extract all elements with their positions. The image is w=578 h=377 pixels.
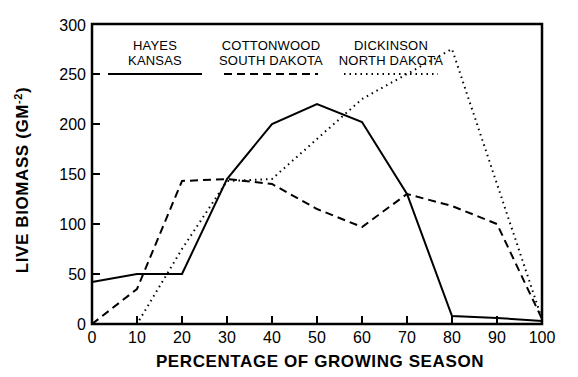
y-axis-title: LIVE BIOMASS (GM-2) <box>12 87 32 273</box>
x-tick-label: 100 <box>529 329 556 346</box>
x-tick-label: 30 <box>218 329 236 346</box>
legend-label-line2: KANSAS <box>128 53 182 68</box>
y-tick-label: 250 <box>59 66 86 83</box>
y-axis-tick-labels: 0 50 100 150 200 250 300 <box>59 17 86 333</box>
legend-label-line2: NORTH DAKOTA <box>339 53 444 68</box>
legend-label-line1: HAYES <box>133 38 177 53</box>
x-tick-label: 70 <box>398 329 416 346</box>
legend-label-line1: DICKINSON <box>354 38 428 53</box>
y-axis-title-superscript: -2 <box>12 93 24 104</box>
x-tick-label: 20 <box>173 329 191 346</box>
plot-frame <box>92 24 542 324</box>
live-biomass-line-chart: 0 50 100 150 200 250 300 0 10 20 30 40 5… <box>0 0 578 377</box>
x-axis-tick-labels: 0 10 20 30 40 50 60 70 80 90 100 <box>88 329 556 346</box>
legend-label-line2: SOUTH DAKOTA <box>219 53 323 68</box>
x-axis-title: PERCENTAGE OF GROWING SEASON <box>156 352 484 371</box>
y-axis-title-main: LIVE BIOMASS (GM <box>13 104 32 273</box>
svg-text:LIVE BIOMASS (GM-2): LIVE BIOMASS (GM-2) <box>12 87 32 273</box>
y-tick-label: 150 <box>59 166 86 183</box>
y-tick-label: 200 <box>59 116 86 133</box>
legend-label-line1: COTTONWOOD <box>222 38 321 53</box>
y-tick-label: 0 <box>77 316 86 333</box>
x-tick-label: 60 <box>353 329 371 346</box>
x-tick-label: 90 <box>488 329 506 346</box>
y-tick-label: 300 <box>59 17 86 34</box>
y-tick-label: 100 <box>59 216 86 233</box>
x-tick-label: 40 <box>263 329 281 346</box>
x-tick-label: 0 <box>88 329 97 346</box>
x-tick-label: 50 <box>308 329 326 346</box>
x-tick-label: 80 <box>443 329 461 346</box>
x-tick-label: 10 <box>128 329 146 346</box>
y-tick-label: 50 <box>68 266 86 283</box>
y-axis-title-tail: ) <box>13 87 32 93</box>
